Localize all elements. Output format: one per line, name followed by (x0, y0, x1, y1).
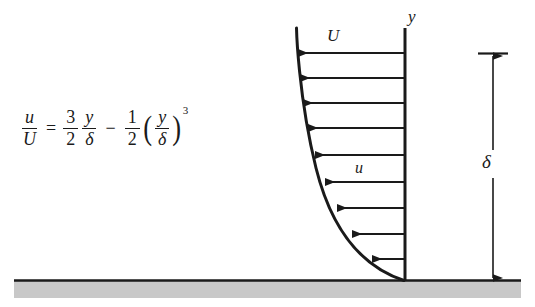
term2-var-numerator: y (155, 108, 169, 129)
term2-coeff-denominator: 2 (125, 129, 140, 149)
lhs-denominator: U (20, 129, 39, 149)
term1-var-numerator: y (82, 108, 96, 129)
equation-lhs-fraction: u U (20, 108, 39, 149)
minus-sign: − (106, 118, 116, 139)
term1-coeff-denominator: 2 (63, 129, 78, 149)
lhs-numerator: u (22, 108, 37, 129)
label-freestream-velocity: U (327, 27, 339, 44)
paren-open: ( (143, 115, 152, 142)
term2-parenthesized-group: ( y δ ) 3 (142, 108, 189, 149)
term2-coefficient-fraction: 1 2 (125, 108, 140, 149)
term1-coefficient-fraction: 3 2 (63, 108, 78, 149)
term1-coeff-numerator: 3 (63, 108, 78, 129)
term1-variable-fraction: y δ (82, 108, 96, 149)
paren-close: ) (173, 115, 182, 142)
term2-coeff-numerator: 1 (125, 108, 140, 129)
term1-var-denominator: δ (82, 129, 96, 149)
label-boundary-layer-thickness: δ (482, 152, 491, 171)
equals-sign: = (46, 118, 56, 139)
figure-canvas: u U = 3 2 y δ − 1 2 ( y δ ) 3 U y u δ (0, 0, 535, 307)
ground-surface (14, 281, 521, 299)
velocity-profile-equation: u U = 3 2 y δ − 1 2 ( y δ ) 3 (18, 108, 188, 149)
term2-exponent: 3 (183, 104, 189, 116)
term2-variable-fraction: y δ (155, 108, 169, 149)
term2-var-denominator: δ (155, 129, 169, 149)
label-local-velocity: u (355, 160, 363, 176)
label-y-axis: y (408, 8, 416, 25)
boundary-layer-diagram (0, 0, 535, 307)
